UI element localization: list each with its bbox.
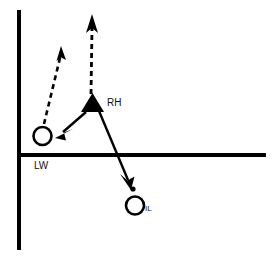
arrow-lw-dashed-up	[44, 46, 66, 124]
il-point-dot	[130, 186, 135, 191]
arrow-rh-to-il	[99, 111, 135, 190]
node-label-lw: LW	[34, 160, 49, 171]
node-label-il: IL	[145, 204, 152, 213]
arrow-rh-to-lw	[55, 112, 86, 141]
arrow-rh-dashed-up	[86, 14, 98, 94]
arrow-rh-dashed-up-shaft	[91, 28, 92, 94]
arrow-lw-dashed-up-head	[57, 46, 67, 61]
node-lw-circle	[34, 127, 52, 145]
arrow-lw-dashed-up-shaft	[44, 58, 60, 124]
diagram-canvas: RH LW IL	[0, 0, 273, 261]
node-il-circle	[126, 197, 144, 215]
node-label-rh: RH	[107, 97, 121, 108]
diagram-svg: RH LW IL	[0, 0, 273, 261]
node-rh-triangle	[81, 93, 104, 112]
arrow-rh-to-il-shaft	[99, 111, 128, 180]
arrow-rh-to-lw-shaft	[63, 112, 86, 132]
